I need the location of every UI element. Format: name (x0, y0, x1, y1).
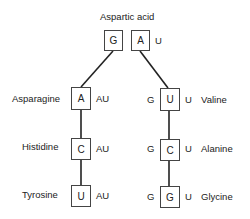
box-asparagine: A (71, 87, 91, 110)
root-box-g: G (104, 30, 123, 51)
suffix-valine: U (185, 94, 192, 106)
box-valine: U (160, 88, 180, 111)
suffix-alanine: U (185, 143, 192, 155)
suffix-tyrosine: AU (96, 190, 109, 202)
root-suffix: U (155, 35, 162, 47)
label-alanine: Alanine (201, 143, 233, 155)
box-alanine: C (160, 139, 180, 161)
connector-lines (0, 0, 250, 219)
label-valine: Valine (201, 94, 227, 106)
suffix-histidine: AU (96, 143, 109, 155)
box-histidine: C (71, 138, 91, 160)
label-glycine: Glycine (201, 191, 233, 203)
root-box-a: A (131, 30, 150, 51)
label-histidine: Histidine (22, 141, 58, 153)
label-asparagine: Asparagine (12, 93, 60, 105)
box-tyrosine: U (71, 185, 91, 207)
box-glycine: G (160, 186, 180, 208)
label-tyrosine: Tyrosine (22, 189, 58, 201)
suffix-asparagine: AU (96, 93, 109, 105)
prefix-glycine: G (147, 191, 154, 203)
title-aspartic-acid: Aspartic acid (100, 11, 154, 23)
prefix-valine: G (147, 94, 154, 106)
prefix-alanine: G (147, 143, 154, 155)
suffix-glycine: U (185, 191, 192, 203)
